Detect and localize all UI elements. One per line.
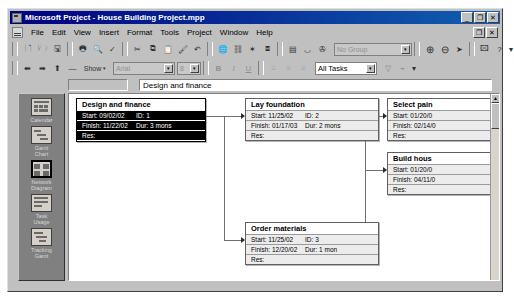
unlink-tasks-icon[interactable]: ✶ [245, 42, 260, 57]
autofilter-icon[interactable]: ▽ [380, 61, 395, 76]
link-tasks-icon[interactable]: ⛓ [230, 42, 245, 57]
font-size-combo[interactable]: 8 ▾ [177, 62, 201, 75]
menu-item-insert[interactable]: Insert [95, 27, 123, 38]
chevron-down-icon[interactable]: ▾ [103, 65, 106, 71]
window-controls[interactable]: _ ❐ ✕ [461, 12, 500, 23]
id-label: ID: [305, 112, 313, 119]
menu-item-file[interactable]: File [27, 27, 48, 38]
align-center-icon[interactable]: ≡ [281, 61, 296, 76]
show-subtasks-icon[interactable]: ⬆ [50, 61, 65, 76]
menu-item-help[interactable]: Help [252, 27, 276, 38]
finish-label: Finish: [393, 122, 412, 129]
task-start-row: Start: 01/20/0 [388, 111, 490, 121]
hyperlink-icon[interactable]: 🌐 [215, 42, 230, 57]
font-size-value: 8 [180, 65, 184, 72]
paste-icon[interactable]: 📋 [160, 42, 175, 57]
publish-icon[interactable]: ✇ [315, 42, 330, 57]
task-node-design-and-finance[interactable]: Design and finance Start: 09/02/02 ID: 1 [76, 98, 206, 142]
formatting-overflow-icon[interactable]: ▾ [410, 61, 417, 76]
sidebar-item-task-usage[interactable]: Task Usage [19, 194, 64, 225]
task-finish-cell: Finish: 01/17/03 [251, 122, 305, 130]
restore-button[interactable]: ❐ [474, 12, 486, 23]
goto-selected-task-icon[interactable]: ➤ [452, 42, 467, 57]
id-label: ID: [305, 236, 313, 243]
assign-resources-icon[interactable]: ◡ [300, 42, 315, 57]
task-node-build-house[interactable]: Build hous Start: 01/20/0 Finish: 04/11/… [387, 152, 490, 195]
task-node-order-materials[interactable]: Order materials Start: 11/25/02 ID: 3 [245, 222, 379, 265]
menu-item-edit[interactable]: Edit [48, 27, 70, 38]
network-diagram-content: Design and finance Start: 09/02/02 ID: 1 [69, 94, 490, 280]
format-painter-icon[interactable]: 🖌 [175, 42, 190, 57]
indent-icon[interactable]: ➡ [35, 61, 50, 76]
cut-icon[interactable]: ✂ [130, 42, 145, 57]
task-start-cell: Start: 11/25/02 [251, 236, 305, 244]
toolbar-overflow-icon[interactable]: ▾ [507, 42, 514, 57]
task-node-lay-foundation[interactable]: Lay foundation Start: 11/25/02 ID: 2 [245, 98, 379, 141]
underline-button[interactable]: U [241, 61, 256, 76]
vertical-scrollbar[interactable]: ▲ [490, 94, 499, 280]
filter-combo[interactable]: All Tasks ▾ [315, 62, 377, 75]
minimize-button[interactable]: _ [461, 12, 473, 23]
group-combo[interactable]: No Group ▾ [334, 43, 412, 56]
split-task-icon[interactable]: ⧈ [260, 42, 275, 57]
toolbar-grip[interactable] [12, 42, 18, 56]
italic-button[interactable]: I [226, 61, 241, 76]
new-icon[interactable]: 🗋 [20, 42, 35, 57]
task-information-icon[interactable]: ▤ [285, 42, 300, 57]
document-window-controls[interactable]: ❐ ✕ [473, 27, 500, 38]
sidebar-item-calendar[interactable]: Calendar [19, 98, 64, 123]
menu-item-window[interactable]: Window [216, 27, 252, 38]
task-node-select-paint[interactable]: Select pain Start: 01/20/0 Finish: 02/14… [387, 98, 490, 141]
chevron-down-icon[interactable]: ▾ [366, 64, 375, 73]
show-menu-button[interactable]: Show ▾ [80, 61, 110, 76]
task-finish-cell: Finish: 11/22/02 [82, 122, 136, 130]
bold-button[interactable]: B [211, 61, 226, 76]
task-resource-row: Res: [246, 255, 378, 264]
sidebar-item-tracking-gantt[interactable]: Tracking Gantt [19, 228, 64, 259]
copy-picture-icon[interactable]: 🖾 [477, 42, 492, 57]
print-icon[interactable]: 🖶 [75, 42, 90, 57]
chevron-down-icon[interactable]: ▾ [190, 64, 199, 73]
entry-field[interactable]: Design and finance [139, 79, 492, 91]
align-left-icon[interactable]: ≡ [266, 61, 281, 76]
spelling-icon[interactable]: ✓ [105, 42, 120, 57]
document-icon[interactable] [12, 27, 23, 38]
formatting-toolbar-grip[interactable] [12, 61, 18, 75]
close-button[interactable]: ✕ [487, 12, 499, 23]
copy-icon[interactable]: ⧉ [145, 42, 160, 57]
sidebar-item-network-diagram[interactable]: Network Diagram [19, 160, 64, 191]
calendar-view-icon [31, 98, 52, 116]
document-close-button[interactable]: ✕ [486, 27, 498, 38]
task-finish-cell: Finish: 12/20/02 [251, 246, 305, 254]
open-icon[interactable]: 🗁 [35, 42, 50, 57]
scrollbar-thumb[interactable] [491, 103, 500, 129]
menu-item-tools[interactable]: Tools [156, 27, 183, 38]
task-finish-value: 01/17/03 [272, 122, 297, 129]
print-preview-icon[interactable]: 🔍 [90, 42, 105, 57]
chevron-down-icon[interactable]: ▾ [164, 64, 173, 73]
zoom-out-icon[interactable]: ⊖ [437, 42, 452, 57]
sidebar-item-gantt-chart[interactable]: Gantt Chart [19, 126, 64, 157]
save-icon[interactable]: 🖫 [50, 42, 65, 57]
menu-item-format[interactable]: Format [123, 27, 156, 38]
task-resource-row: Res: [77, 131, 205, 141]
network-diagram-canvas[interactable]: Design and finance Start: 09/02/02 ID: 1 [68, 93, 500, 281]
goto-icon[interactable]: ⌁ [395, 61, 410, 76]
network-diagram-view-icon [31, 160, 52, 178]
undo-icon[interactable]: ↶ [190, 42, 205, 57]
menu-item-project[interactable]: Project [183, 27, 216, 38]
align-right-icon[interactable]: ≡ [296, 61, 311, 76]
res-label: Res: [82, 132, 95, 140]
task-start-row: Start: 09/02/02 ID: 1 [77, 111, 205, 121]
outdent-icon[interactable]: ⬅ [20, 61, 35, 76]
menu-item-view[interactable]: View [70, 27, 95, 38]
font-name-combo[interactable]: Arial ▾ [113, 62, 175, 75]
scroll-up-arrow-icon[interactable]: ▲ [491, 94, 500, 103]
document-restore-button[interactable]: ❐ [473, 27, 485, 38]
task-duration-cell: Dur: 3 mons [136, 122, 205, 130]
task-duration-value: 2 mons [319, 122, 340, 129]
help-icon[interactable]: ? [492, 42, 507, 57]
zoom-in-icon[interactable]: ⊕ [422, 42, 437, 57]
chevron-down-icon[interactable]: ▾ [401, 45, 410, 54]
hide-subtasks-icon[interactable]: — [65, 61, 80, 76]
